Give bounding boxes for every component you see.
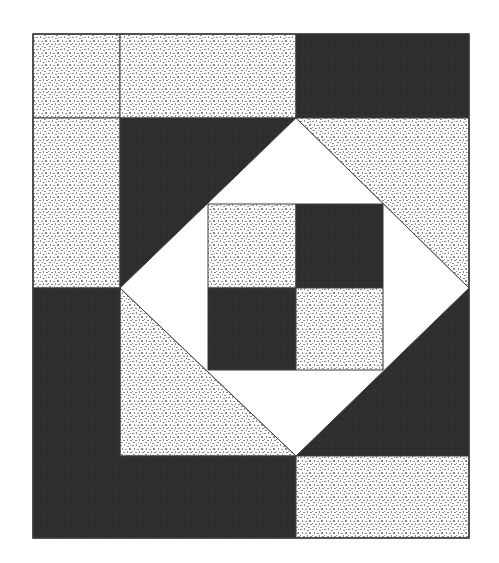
quilt-pieces (33, 34, 469, 538)
bottom-right-rectangle (296, 456, 469, 538)
top-center-rectangle (120, 34, 296, 118)
nine-patch-bottom-left (208, 288, 296, 370)
top-right-rectangle (296, 34, 469, 118)
nine-patch-bottom-right (296, 288, 383, 370)
quilt-block-diagram (0, 0, 499, 563)
left-upper-rectangle (33, 118, 120, 288)
nine-patch-top-left (208, 204, 296, 288)
nine-patch-top-right (296, 204, 383, 288)
top-left-small-square (33, 34, 120, 118)
